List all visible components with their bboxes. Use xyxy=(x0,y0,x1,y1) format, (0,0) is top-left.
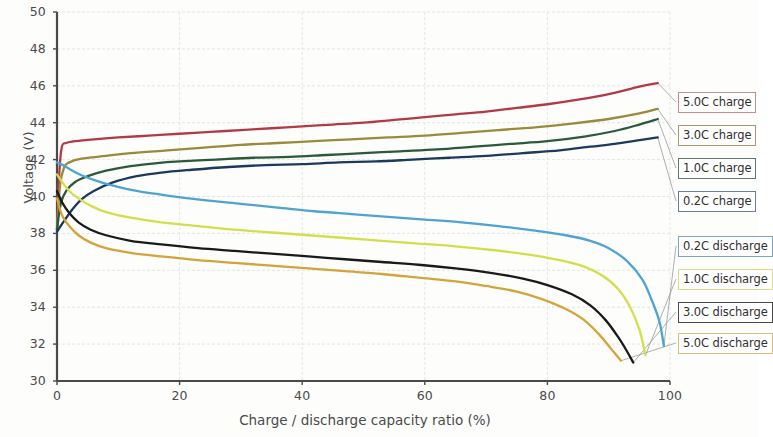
y-axis-tick-label: 48 xyxy=(12,41,46,56)
series-line xyxy=(57,83,658,230)
x-axis-tick-label: 60 xyxy=(405,388,445,403)
x-axis-tick-label: 100 xyxy=(650,388,690,403)
x-axis-tick-label: 80 xyxy=(527,388,567,403)
x-axis-tick-label: 40 xyxy=(282,388,322,403)
y-axis-tick-label: 34 xyxy=(12,299,46,314)
y-axis-tick-label: 46 xyxy=(12,78,46,93)
legend-item-3-0c-charge[interactable]: 3.0C charge xyxy=(678,125,756,146)
y-axis-tick-label: 38 xyxy=(12,225,46,240)
legend-item-5-0c-discharge[interactable]: 5.0C discharge xyxy=(678,333,773,354)
legend-item-0-2c-charge[interactable]: 0.2C charge xyxy=(678,191,756,212)
y-axis-tick-label: 30 xyxy=(12,373,46,388)
series-line xyxy=(57,109,658,230)
axis-lines xyxy=(53,12,670,385)
series-line xyxy=(57,198,621,360)
y-axis-tick-label: 36 xyxy=(12,262,46,277)
legend-item-1-0c-charge[interactable]: 1.0C charge xyxy=(678,158,756,179)
data-series-group xyxy=(57,83,664,363)
y-axis-tick-label: 50 xyxy=(12,4,46,19)
x-axis-tick-label: 0 xyxy=(37,388,77,403)
legend-item-label: 0.2C charge xyxy=(683,194,751,208)
legend-item-5-0c-charge[interactable]: 5.0C charge xyxy=(678,92,756,113)
series-line xyxy=(57,174,645,355)
y-axis-tick-label: 32 xyxy=(12,336,46,351)
legend-item-1-0c-discharge[interactable]: 1.0C discharge xyxy=(678,269,773,290)
legend-item-label: 1.0C charge xyxy=(683,161,751,175)
series-line xyxy=(57,191,633,363)
gridlines xyxy=(57,12,670,381)
legend-item-3-0c-discharge[interactable]: 3.0C discharge xyxy=(678,302,773,323)
legend-item-label: 3.0C charge xyxy=(683,128,751,142)
x-axis-tick-label: 20 xyxy=(160,388,200,403)
legend-leader-lines xyxy=(621,83,676,363)
legend-item-label: 5.0C discharge xyxy=(683,336,768,350)
x-axis-title: Charge / discharge capacity ratio (%) xyxy=(120,412,610,428)
legend-item-label: 3.0C discharge xyxy=(683,305,768,319)
legend-item-label: 1.0C discharge xyxy=(683,272,768,286)
legend-item-label: 5.0C charge xyxy=(683,95,751,109)
legend-item-0-2c-discharge[interactable]: 0.2C discharge xyxy=(678,236,773,257)
legend-item-label: 0.2C discharge xyxy=(683,239,768,253)
y-axis-title: Voltage (V) xyxy=(21,118,36,218)
